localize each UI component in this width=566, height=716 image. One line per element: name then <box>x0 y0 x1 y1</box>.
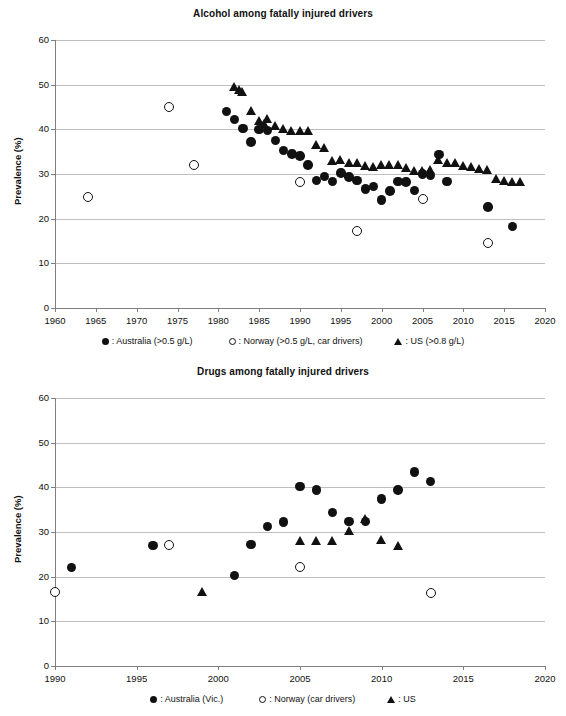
data-point <box>401 177 410 186</box>
y-tick-label: 10 <box>21 257 49 268</box>
x-tick-label: 2010 <box>441 315 485 326</box>
legend-item-us: : US (>0.8 g/L) <box>394 336 464 346</box>
y-tick-label: 20 <box>21 213 49 224</box>
legend-item-australia: : Australia (>0.5 g/L) <box>102 336 193 346</box>
data-point <box>312 485 321 494</box>
y-tick-mark <box>51 532 55 533</box>
gridline <box>55 577 545 578</box>
y-tick-label: 50 <box>21 79 49 90</box>
circle-filled-icon <box>150 696 157 703</box>
y-tick-mark <box>51 174 55 175</box>
legend-item-us: : US <box>387 694 416 704</box>
data-point <box>311 536 321 545</box>
x-tick-label: 1985 <box>237 315 281 326</box>
data-point <box>360 514 370 523</box>
x-tick-label: 1995 <box>319 315 363 326</box>
x-tick-label: 1975 <box>156 315 200 326</box>
data-point <box>483 202 492 211</box>
y-tick-label: 60 <box>21 34 49 45</box>
y-tick-mark <box>51 398 55 399</box>
y-tick-label: 0 <box>21 660 49 671</box>
x-tick-label: 1970 <box>115 315 159 326</box>
x-tick-mark <box>545 308 546 312</box>
x-tick-label: 2010 <box>360 673 404 684</box>
x-tick-label: 1965 <box>74 315 118 326</box>
legend-label-us: : US <box>398 694 416 704</box>
x-tick-mark <box>259 308 260 312</box>
data-point <box>148 541 157 550</box>
legend-item-norway: : Norway (car drivers) <box>259 694 355 704</box>
y-tick-label: 0 <box>21 302 49 313</box>
gridline <box>55 443 545 444</box>
x-tick-mark <box>463 666 464 670</box>
data-point <box>344 526 354 535</box>
circle-open-icon <box>259 696 266 703</box>
data-point <box>385 186 394 195</box>
y-axis-line <box>55 40 56 308</box>
data-point <box>189 160 199 170</box>
data-point <box>418 194 428 204</box>
data-point <box>352 226 362 236</box>
circle-filled-icon <box>102 338 109 345</box>
data-point <box>377 195 386 204</box>
y-tick-mark <box>51 40 55 41</box>
chart-drugs: Drugs among fatally injured drivers Prev… <box>0 358 566 716</box>
plot-area-alcohol <box>55 40 545 308</box>
data-point <box>483 238 493 248</box>
y-tick-mark <box>51 577 55 578</box>
y-tick-label: 30 <box>21 526 49 537</box>
gridline <box>55 174 545 175</box>
y-tick-mark <box>51 219 55 220</box>
x-tick-mark <box>96 308 97 312</box>
data-point <box>246 106 256 115</box>
data-point <box>376 535 386 544</box>
x-tick-mark <box>504 308 505 312</box>
data-point <box>230 571 239 580</box>
x-tick-mark <box>463 308 464 312</box>
x-tick-label: 2015 <box>482 315 526 326</box>
figure-page: Alcohol among fatally injured drivers Pr… <box>0 0 566 716</box>
chart-title-drugs: Drugs among fatally injured drivers <box>0 366 566 377</box>
y-tick-mark <box>51 129 55 130</box>
data-point <box>515 177 525 186</box>
gridline <box>55 532 545 533</box>
x-tick-mark <box>218 666 219 670</box>
triangle-icon <box>387 696 395 703</box>
x-tick-mark <box>382 308 383 312</box>
data-point <box>425 165 435 174</box>
data-point <box>303 126 313 135</box>
x-tick-mark <box>300 308 301 312</box>
x-tick-mark <box>341 308 342 312</box>
x-tick-mark <box>137 666 138 670</box>
legend-alcohol: : Australia (>0.5 g/L) : Norway (>0.5 g/… <box>0 336 566 346</box>
legend-item-norway: : Norway (>0.5 g/L, car drivers) <box>229 336 363 346</box>
data-point <box>237 87 247 96</box>
data-point <box>344 517 353 526</box>
data-point <box>295 151 304 160</box>
data-point <box>67 563 76 572</box>
data-point <box>271 136 280 145</box>
y-tick-label: 50 <box>21 437 49 448</box>
x-tick-mark <box>55 666 56 670</box>
data-point <box>393 541 403 550</box>
data-point <box>508 222 517 231</box>
gridline <box>55 621 545 622</box>
data-point <box>83 192 93 202</box>
data-point <box>164 102 174 112</box>
x-tick-label: 1980 <box>196 315 240 326</box>
y-tick-label: 60 <box>21 392 49 403</box>
data-point <box>230 115 239 124</box>
data-point <box>222 107 231 116</box>
data-point <box>352 176 361 185</box>
legend-drugs: : Australia (Vic.) : Norway (car drivers… <box>0 694 566 704</box>
triangle-icon <box>394 338 402 345</box>
x-tick-label: 1995 <box>115 673 159 684</box>
x-tick-mark <box>423 308 424 312</box>
chart-alcohol: Alcohol among fatally injured drivers Pr… <box>0 0 566 358</box>
x-tick-mark <box>218 308 219 312</box>
y-tick-mark <box>51 263 55 264</box>
gridline <box>55 219 545 220</box>
y-tick-mark <box>51 85 55 86</box>
x-tick-label: 2005 <box>401 315 445 326</box>
x-tick-mark <box>137 308 138 312</box>
